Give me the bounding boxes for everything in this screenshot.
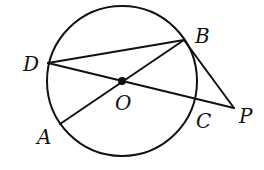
label-d: D: [22, 52, 39, 76]
center-point-o: [118, 77, 126, 85]
label-c: C: [196, 109, 211, 133]
chord-db: [48, 40, 184, 63]
label-b: B: [194, 24, 210, 48]
label-a: A: [35, 125, 51, 149]
label-o: O: [115, 91, 131, 115]
geometry-diagram: D B O C P A: [0, 0, 264, 170]
label-p: P: [238, 104, 253, 128]
